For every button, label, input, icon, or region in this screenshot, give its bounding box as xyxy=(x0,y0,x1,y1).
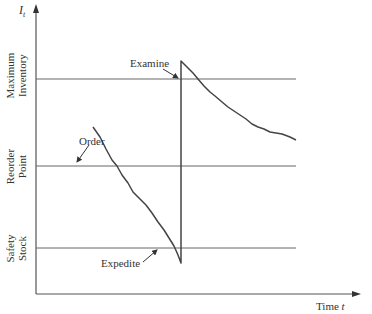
safety-stock-label-line2: Stock xyxy=(17,230,29,268)
y-axis-label: It xyxy=(19,4,25,19)
maximum-inventory-label-line2: Inventory xyxy=(17,49,29,103)
x-axis-label-text: Time xyxy=(316,300,342,312)
inventory-curve xyxy=(93,61,296,263)
order-annotation: Order xyxy=(79,136,105,147)
inventory-diagram xyxy=(0,0,372,314)
order-arrow-icon xyxy=(77,145,89,162)
reorder-point-label: Reorder Point xyxy=(5,146,28,188)
expedite-arrow-icon xyxy=(143,250,157,262)
x-axis-arrow-icon xyxy=(352,291,361,297)
x-axis-label: Time t xyxy=(316,301,345,312)
expedite-annotation: Expedite xyxy=(101,258,140,269)
maximum-inventory-label: Maximum Inventory xyxy=(5,49,28,103)
safety-stock-label-line1: Safety xyxy=(5,230,17,268)
examine-arrow-icon xyxy=(163,69,178,78)
y-axis-label-subscript: t xyxy=(23,10,25,19)
reorder-point-label-line1: Reorder xyxy=(5,146,17,188)
maximum-inventory-label-line1: Maximum xyxy=(5,49,17,103)
x-axis-label-variable: t xyxy=(342,300,345,312)
examine-annotation: Examine xyxy=(130,58,169,69)
safety-stock-label: Safety Stock xyxy=(5,230,28,268)
reorder-point-label-line2: Point xyxy=(17,146,29,188)
y-axis-arrow-icon xyxy=(33,4,39,13)
